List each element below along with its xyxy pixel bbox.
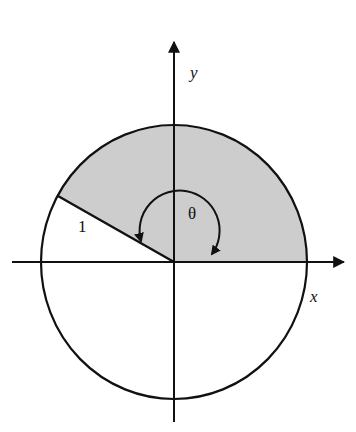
shaded-sector: [58, 126, 307, 262]
radius-label: 1: [78, 217, 87, 236]
y-axis-label: y: [188, 63, 198, 82]
x-axis-label: x: [309, 287, 318, 306]
angle-label: θ: [188, 204, 196, 223]
unit-circle-diagram: y x 1 θ: [0, 0, 356, 432]
